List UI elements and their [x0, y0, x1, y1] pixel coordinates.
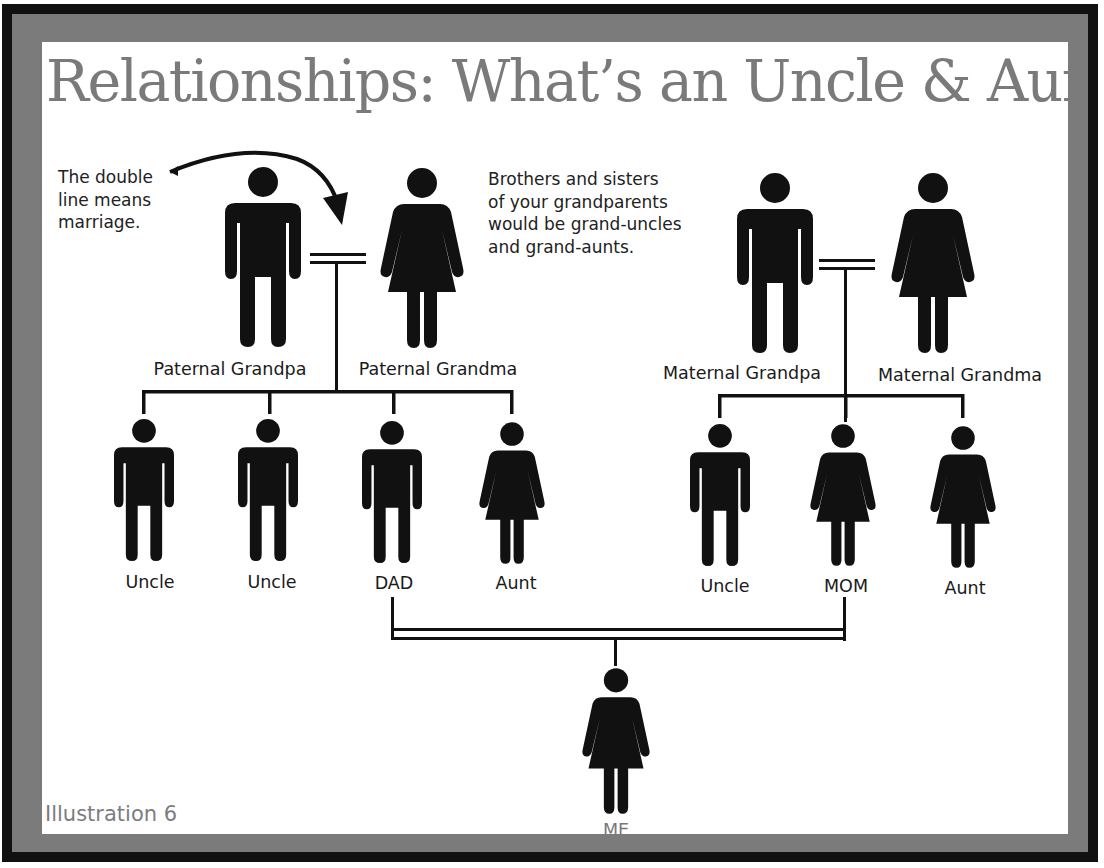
label-maternal-child: MOM [824, 575, 868, 597]
label-paternal-grandma: Paternal Grandma [359, 358, 518, 380]
grey-frame: Relationships: What’s an Uncle & Aunt? [12, 14, 1088, 852]
label-maternal-grandma: Maternal Grandma [878, 364, 1042, 386]
parents-marriage-connector [391, 597, 846, 666]
female-person-icon [381, 168, 464, 348]
label-maternal-child: Aunt [944, 577, 985, 599]
male-person-icon [114, 419, 174, 561]
female-person-icon [930, 426, 995, 567]
male-person-icon [225, 167, 301, 347]
male-person-icon [737, 173, 813, 353]
male-person-icon [362, 421, 422, 563]
marriage-double-line-paternal [310, 253, 366, 392]
label-paternal-child: Uncle [125, 571, 174, 593]
label-paternal-grandpa: Paternal Grandpa [154, 358, 307, 380]
label-paternal-child: DAD [375, 572, 414, 594]
label-maternal-child: Uncle [700, 575, 749, 597]
marriage-note: The double line means marriage. [58, 166, 153, 234]
paternal-sibling-connector [142, 390, 514, 414]
label-maternal-grandpa: Maternal Grandpa [663, 362, 821, 384]
female-person-icon [479, 422, 544, 563]
outer-border: Relationships: What’s an Uncle & Aunt? [2, 4, 1098, 862]
label-paternal-child: Uncle [247, 571, 296, 593]
male-person-icon [238, 419, 298, 561]
female-person-icon [582, 668, 649, 814]
grand-relatives-note: Brothers and sisters of your grandparent… [488, 168, 681, 258]
family-tree-diagram [42, 42, 1068, 834]
label-me: ME [603, 819, 629, 834]
male-person-icon [690, 424, 750, 566]
female-person-icon [892, 173, 975, 353]
maternal-sibling-connector [718, 394, 965, 418]
label-paternal-child: Aunt [495, 572, 536, 594]
illustration-caption: Illustration 6 [45, 802, 177, 826]
female-person-icon [810, 424, 875, 565]
illustration-panel: Relationships: What’s an Uncle & Aunt? [42, 42, 1068, 834]
